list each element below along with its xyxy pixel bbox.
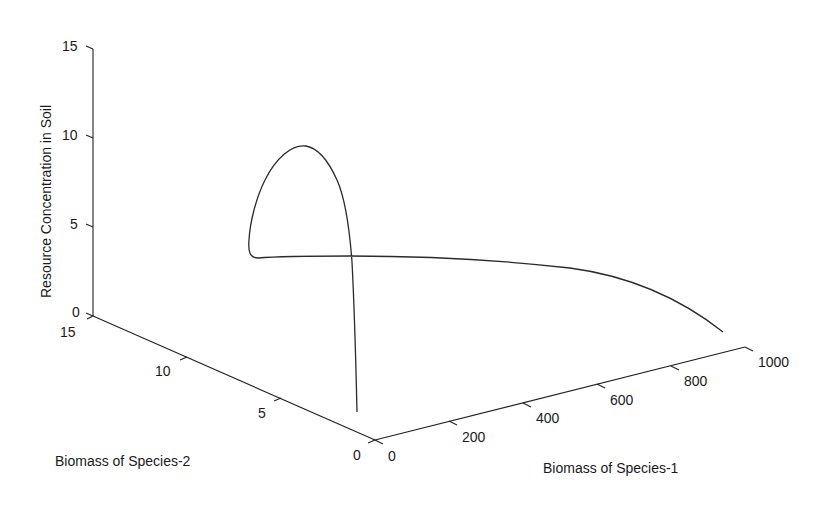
x-tick-400 bbox=[523, 403, 531, 407]
x-axis: 0 200 400 600 800 1000 Biomass of Specie… bbox=[375, 347, 789, 476]
y-axis-title: Biomass of Species-2 bbox=[55, 453, 191, 469]
z-tick-label: 10 bbox=[62, 127, 78, 143]
z-tick-10 bbox=[86, 135, 93, 138]
z-tick-label: 0 bbox=[72, 304, 80, 320]
x-tick-0 bbox=[375, 440, 383, 444]
z-tick-5 bbox=[86, 224, 93, 227]
x-tick-1000 bbox=[745, 347, 753, 351]
x-tick-200 bbox=[449, 421, 457, 425]
x-tick-800 bbox=[671, 366, 679, 370]
z-axis-title: Resource Concentration in Soil bbox=[38, 105, 54, 298]
z-axis: 15 10 5 0 Resource Concentration in Soil bbox=[38, 38, 93, 320]
y-tick-label: 0 bbox=[353, 447, 361, 463]
z-tick-15 bbox=[86, 46, 93, 49]
x-tick-label: 800 bbox=[684, 373, 708, 389]
y-axis-line bbox=[93, 316, 375, 440]
x-tick-label: 600 bbox=[610, 392, 634, 408]
y-tick-15 bbox=[87, 316, 93, 319]
x-tick-600 bbox=[597, 384, 605, 388]
y-tick-label: 15 bbox=[60, 324, 76, 340]
y-tick-0 bbox=[368, 440, 375, 443]
y-tick-label: 10 bbox=[155, 363, 171, 379]
x-tick-label: 400 bbox=[536, 410, 560, 426]
z-tick-0 bbox=[86, 313, 93, 316]
y-tick-label: 5 bbox=[258, 405, 266, 421]
x-tick-label: 1000 bbox=[758, 354, 789, 370]
x-tick-label: 200 bbox=[462, 429, 486, 445]
3d-line-chart: 15 10 5 0 Resource Concentration in Soil… bbox=[0, 0, 832, 505]
z-tick-label: 15 bbox=[62, 38, 78, 54]
z-tick-label: 5 bbox=[70, 216, 78, 232]
x-axis-line bbox=[375, 347, 745, 440]
y-axis: 15 10 5 0 Biomass of Species-2 bbox=[55, 316, 375, 469]
y-tick-10 bbox=[180, 357, 187, 360]
x-tick-label: 0 bbox=[388, 448, 396, 464]
trajectory-curve bbox=[249, 146, 723, 412]
x-axis-title: Biomass of Species-1 bbox=[543, 460, 679, 476]
y-tick-5 bbox=[274, 398, 281, 401]
